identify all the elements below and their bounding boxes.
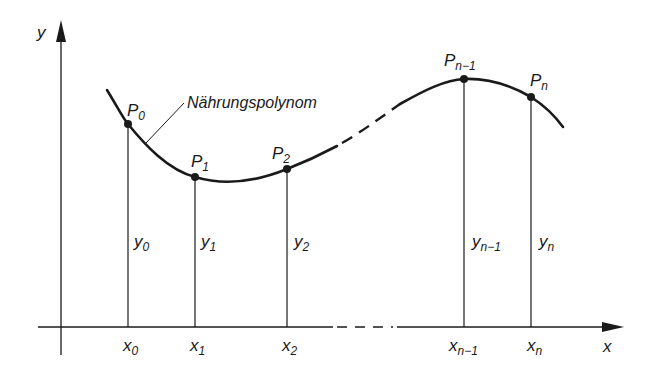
y-value-label-0: y0 xyxy=(133,232,150,254)
point-pn-1-label: Pn−1 xyxy=(444,51,476,73)
y-value-label-1: y1 xyxy=(200,232,216,254)
y-axis-arrow-icon xyxy=(56,20,66,42)
x-axis-arrow-icon xyxy=(602,322,624,332)
point-p2-marker xyxy=(283,165,291,173)
point-p1-marker xyxy=(191,173,199,181)
interpolation-diagram: y x Nährungspolynom P0 P1 P2 Pn−1 Pn y0 … xyxy=(0,0,656,378)
x-value-label-n: xn xyxy=(526,336,543,358)
x-axis-label: x xyxy=(602,337,612,356)
x-value-label-n-1: xn−1 xyxy=(448,336,478,358)
approximation-polynomial-label: Nährungspolynom xyxy=(187,94,317,111)
y-value-label-n: yn xyxy=(538,232,555,254)
polynomial-curve-dashed xyxy=(342,104,400,143)
caption-leader-line xyxy=(146,103,184,143)
y-value-label-2: y2 xyxy=(293,232,310,254)
point-p1-label: P1 xyxy=(191,152,209,174)
point-pn-1-marker xyxy=(460,75,468,83)
point-pn-marker xyxy=(527,93,535,101)
point-pn-label: Pn xyxy=(530,71,548,93)
point-p0-marker xyxy=(124,120,132,128)
point-p0-label: P0 xyxy=(127,101,145,123)
x-value-label-2: x2 xyxy=(281,336,298,358)
point-p2-label: P2 xyxy=(272,144,290,166)
x-value-label-0: x0 xyxy=(122,336,139,358)
y-value-label-n-1: yn−1 xyxy=(471,232,501,254)
y-axis-label: y xyxy=(36,23,47,42)
x-value-label-1: x1 xyxy=(189,336,205,358)
